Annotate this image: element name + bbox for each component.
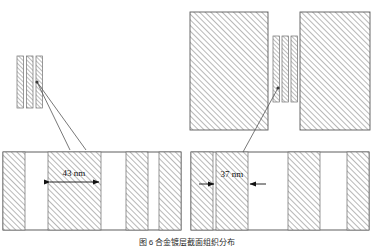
left-overview-lamellae bbox=[17, 56, 43, 108]
lamella-bar bbox=[17, 56, 24, 108]
figure-container: 43 nm 37 nm 图 6 合金镀层截面组织分布 bbox=[0, 0, 374, 248]
bulk-block-left bbox=[190, 12, 268, 130]
hatched-band-measured bbox=[216, 152, 248, 230]
hatched-band bbox=[3, 152, 25, 230]
dimension-label-right: 37 nm bbox=[221, 169, 244, 179]
leader-anchor-dot bbox=[276, 86, 279, 89]
hatched-band bbox=[159, 152, 181, 230]
dimension-label-left: 43 nm bbox=[63, 168, 86, 178]
right-detail-panel: 37 nm bbox=[191, 152, 369, 230]
lamella-bar bbox=[273, 36, 280, 102]
hatched-band bbox=[347, 152, 369, 230]
schematic-svg: 43 nm 37 nm 图 6 合金镀层截面组织分布 bbox=[0, 0, 374, 248]
hatched-band-measured bbox=[48, 152, 101, 230]
bulk-block-right bbox=[300, 12, 370, 130]
left-detail-panel: 43 nm bbox=[3, 152, 181, 230]
lamella-bar bbox=[282, 36, 289, 102]
hatched-band bbox=[191, 152, 213, 230]
lamella-bar bbox=[291, 36, 298, 102]
figure-caption: 图 6 合金镀层截面组织分布 bbox=[139, 237, 236, 247]
hatched-band bbox=[288, 152, 320, 230]
leader-anchor-dot bbox=[35, 80, 38, 83]
hatched-band bbox=[126, 152, 148, 230]
lamella-bar bbox=[27, 56, 34, 108]
